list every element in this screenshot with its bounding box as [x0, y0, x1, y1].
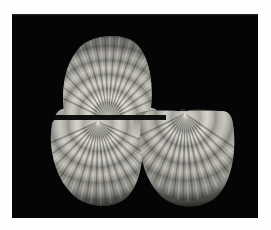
photo-plate	[12, 14, 258, 218]
specimen-lower-right	[130, 104, 242, 214]
figure-root: upper scallop valve lower left scallop v…	[0, 0, 271, 230]
specimen-lower-right-valve	[130, 104, 242, 214]
specimen-separation-gap	[54, 115, 166, 120]
specimen-group	[12, 14, 258, 218]
